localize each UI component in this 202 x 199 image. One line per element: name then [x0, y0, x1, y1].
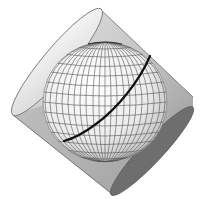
cylinder-projection-diagram [0, 0, 202, 199]
diagram-canvas [0, 0, 202, 199]
